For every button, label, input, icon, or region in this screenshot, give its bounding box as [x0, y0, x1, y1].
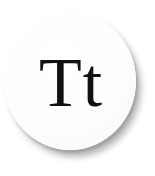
icon-stage: Tt	[0, 0, 155, 176]
text-format-button[interactable]: Tt	[4, 12, 136, 150]
text-format-icon: Tt	[39, 48, 103, 118]
